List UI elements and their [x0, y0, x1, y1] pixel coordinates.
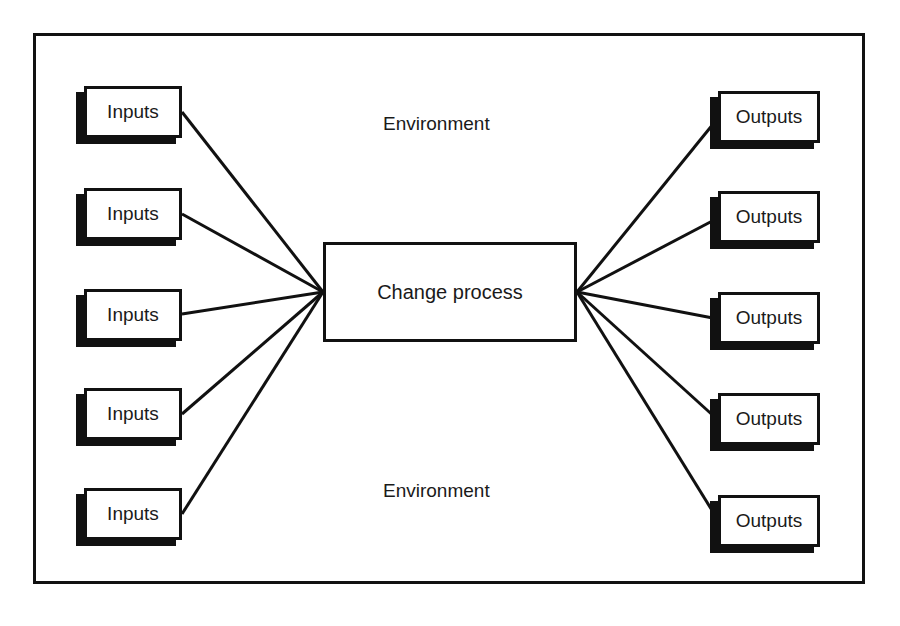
input-box: Inputs — [84, 388, 182, 440]
input-box: Inputs — [84, 188, 182, 240]
input-label: Inputs — [107, 304, 159, 326]
output-box: Outputs — [718, 495, 820, 547]
input-label: Inputs — [107, 101, 159, 123]
output-label: Outputs — [736, 510, 803, 532]
output-box: Outputs — [718, 191, 820, 243]
input-label: Inputs — [107, 403, 159, 425]
input-label: Inputs — [107, 503, 159, 525]
change-process-label: Change process — [377, 281, 523, 304]
output-box: Outputs — [718, 393, 820, 445]
input-box: Inputs — [84, 289, 182, 341]
output-box: Outputs — [718, 91, 820, 143]
input-box: Inputs — [84, 86, 182, 138]
change-process-box: Change process — [323, 242, 577, 342]
output-box: Outputs — [718, 292, 820, 344]
input-label: Inputs — [107, 203, 159, 225]
output-label: Outputs — [736, 408, 803, 430]
environment-label-bottom: Environment — [383, 480, 490, 502]
output-label: Outputs — [736, 307, 803, 329]
output-label: Outputs — [736, 106, 803, 128]
output-label: Outputs — [736, 206, 803, 228]
input-box: Inputs — [84, 488, 182, 540]
environment-label-top: Environment — [383, 113, 490, 135]
